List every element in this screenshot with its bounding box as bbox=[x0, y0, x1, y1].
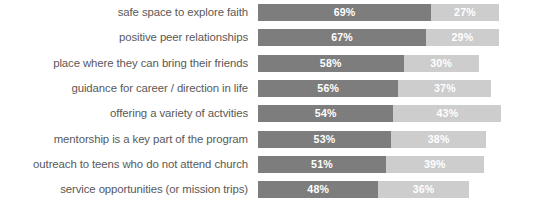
chart-row: safe space to explore faith69%27% bbox=[0, 4, 549, 21]
bar-segment-secondary: 43% bbox=[393, 105, 501, 122]
bar-value-primary: 58% bbox=[258, 55, 404, 72]
chart-row: place where they can bring their friends… bbox=[0, 55, 549, 72]
bar-segment-primary: 53% bbox=[258, 131, 391, 148]
category-label: positive peer relationships bbox=[0, 29, 248, 46]
category-label: outreach to teens who do not attend chur… bbox=[0, 156, 248, 173]
category-label: guidance for career / direction in life bbox=[0, 80, 248, 97]
bar-segment-secondary: 37% bbox=[398, 80, 491, 97]
bar-value-secondary: 37% bbox=[398, 80, 491, 97]
stacked-bar: 58%30% bbox=[258, 55, 479, 72]
bar-segment-secondary: 30% bbox=[404, 55, 479, 72]
bar-segment-secondary: 29% bbox=[426, 29, 499, 46]
chart-row: guidance for career / direction in life5… bbox=[0, 80, 549, 97]
bar-value-secondary: 30% bbox=[404, 55, 479, 72]
bar-segment-primary: 67% bbox=[258, 29, 426, 46]
stacked-bar: 67%29% bbox=[258, 29, 499, 46]
bar-segment-secondary: 27% bbox=[431, 4, 499, 21]
bar-value-primary: 48% bbox=[258, 181, 378, 198]
chart-row: mentorship is a key part of the program5… bbox=[0, 131, 549, 148]
bar-value-secondary: 36% bbox=[378, 181, 468, 198]
stacked-bar: 48%36% bbox=[258, 181, 469, 198]
stacked-bar: 53%38% bbox=[258, 131, 486, 148]
bar-value-primary: 51% bbox=[258, 156, 386, 173]
chart-row: offering a variety of actvities54%43% bbox=[0, 105, 549, 122]
category-label: safe space to explore faith bbox=[0, 4, 248, 21]
category-label: service opportunities (or mission trips) bbox=[0, 181, 248, 198]
bar-segment-primary: 58% bbox=[258, 55, 404, 72]
category-label: place where they can bring their friends bbox=[0, 55, 248, 72]
chart-row: outreach to teens who do not attend chur… bbox=[0, 156, 549, 173]
stacked-bar: 54%43% bbox=[258, 105, 501, 122]
bar-value-primary: 54% bbox=[258, 105, 393, 122]
bar-segment-primary: 51% bbox=[258, 156, 386, 173]
bar-segment-primary: 48% bbox=[258, 181, 378, 198]
bar-value-secondary: 39% bbox=[386, 156, 484, 173]
stacked-bar: 69%27% bbox=[258, 4, 499, 21]
chart-rows: safe space to explore faith69%27%positiv… bbox=[0, 0, 549, 205]
bar-segment-primary: 69% bbox=[258, 4, 431, 21]
stacked-bar-chart: safe space to explore faith69%27%positiv… bbox=[0, 0, 549, 205]
bar-value-primary: 53% bbox=[258, 131, 391, 148]
bar-segment-secondary: 39% bbox=[386, 156, 484, 173]
bar-segment-secondary: 38% bbox=[391, 131, 486, 148]
bar-value-primary: 69% bbox=[258, 4, 431, 21]
bar-value-secondary: 27% bbox=[431, 4, 499, 21]
category-label: mentorship is a key part of the program bbox=[0, 131, 248, 148]
chart-row: positive peer relationships67%29% bbox=[0, 29, 549, 46]
bar-value-primary: 67% bbox=[258, 29, 426, 46]
bar-value-secondary: 29% bbox=[426, 29, 499, 46]
bar-segment-primary: 56% bbox=[258, 80, 398, 97]
bar-value-secondary: 43% bbox=[393, 105, 501, 122]
bar-segment-secondary: 36% bbox=[378, 181, 468, 198]
bar-value-primary: 56% bbox=[258, 80, 398, 97]
bar-value-secondary: 38% bbox=[391, 131, 486, 148]
chart-row: service opportunities (or mission trips)… bbox=[0, 181, 549, 198]
category-label: offering a variety of actvities bbox=[0, 105, 248, 122]
stacked-bar: 56%37% bbox=[258, 80, 491, 97]
bar-segment-primary: 54% bbox=[258, 105, 393, 122]
stacked-bar: 51%39% bbox=[258, 156, 484, 173]
